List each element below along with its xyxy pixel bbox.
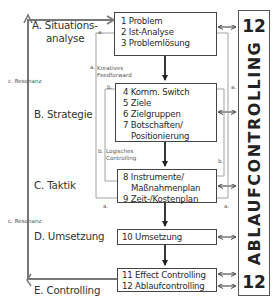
a-label-1: a. (98, 29, 103, 36)
step-7: 7 Botschaften/ (123, 120, 216, 131)
phase-e-label: E. Controlling (34, 284, 100, 297)
phase-a-label: A. Situations- analyse (32, 19, 98, 45)
step-12: 12 Ablaufcontrolling (122, 281, 216, 292)
a-label-3: a. (231, 84, 236, 91)
diagram-canvas: A. Situations- analyse B. Strategie C. T… (0, 0, 277, 301)
step-2: 2 Ist-Analyse (121, 27, 216, 38)
situation-box: 1 Problem 2 Ist-Analyse 3 Problemlösung (114, 12, 217, 56)
strategy-box: 4 Komm. Switch 5 Ziele 6 Zielgruppen 7 B… (115, 83, 217, 142)
step-5: 5 Ziele (123, 98, 216, 109)
sidebar-top-number: 12 (239, 16, 269, 36)
logical-controlling-label: Logisches Controlling (106, 148, 136, 162)
sidebar-vertical-text: ABLAUFCONTROLLING (245, 41, 264, 266)
logical-line1: Logisches (106, 148, 136, 155)
phase-a-line2: analyse (32, 32, 98, 45)
sidebar-bottom-number: 12 (239, 272, 269, 292)
resonance-label-1: c. Resonanz (8, 78, 42, 85)
step-10: 10 Umsetzung (122, 232, 216, 243)
phase-c-label: C. Taktik (34, 179, 76, 192)
logical-line2: Controlling (106, 155, 136, 162)
creative-line1: Kreatives (97, 65, 132, 72)
phase-b-label: B. Strategie (34, 108, 92, 121)
step-3: 3 Problemlösung (121, 38, 216, 49)
resonance-label-2: c. Resonanz (8, 218, 42, 225)
controlling-box: 11 Effect Controlling 12 Ablaufcontrolli… (117, 268, 217, 292)
step-6: 6 Zielgruppen (123, 109, 216, 120)
step-8: 8 Instrumente/ (123, 172, 216, 183)
ablaufcontrolling-sidebar: 12 ABLAUFCONTROLLING 12 (238, 10, 270, 296)
b-label-1: b. (107, 84, 112, 91)
a-label-5: a. (103, 203, 108, 210)
step-4: 4 Komm. Switch (123, 87, 216, 98)
step-8-cont: Maßnahmenplan (123, 183, 216, 194)
implementation-box: 10 Umsetzung (117, 229, 217, 245)
step-7-cont: Positionierung (123, 131, 216, 142)
a-label-6: a. (224, 203, 229, 210)
phase-a-line1: A. Situations- (32, 19, 98, 32)
creative-line2: Feedforward (97, 72, 132, 79)
b-label-3: b. (98, 148, 103, 155)
step-11: 11 Effect Controlling (122, 270, 216, 281)
phase-d-label: D. Umsetzung (34, 230, 104, 243)
step-1: 1 Problem (121, 16, 216, 27)
step-9: 9 Zeit-/Kostenplan (123, 194, 216, 205)
creative-feedforward-label: Kreatives Feedforward (97, 65, 132, 79)
a-label-4: a. (90, 64, 95, 71)
tactic-box: 8 Instrumente/ Maßnahmenplan 9 Zeit-/Kos… (117, 169, 217, 203)
b-label-4: b. (218, 158, 223, 165)
